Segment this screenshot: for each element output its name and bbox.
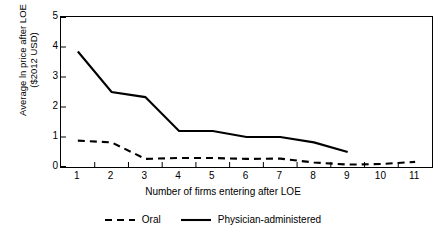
series-canvas [61, 17, 432, 167]
chart-legend: Oral Physician-administered [0, 214, 446, 225]
x-tick-label: 10 [370, 170, 390, 181]
series-line-oral [78, 141, 415, 165]
x-tick-label: 4 [168, 170, 188, 181]
x-axis-tick-labels: 1234567891011 [60, 170, 433, 184]
y-axis-tick-labels: 012345 [38, 0, 58, 200]
y-tick-label: 0 [40, 161, 58, 171]
y-tick-label: 3 [40, 71, 58, 81]
x-tick-label: 11 [404, 170, 424, 181]
legend-label-oral: Oral [142, 214, 161, 225]
y-tick-label: 2 [40, 101, 58, 111]
x-tick-label: 7 [269, 170, 289, 181]
x-tick-label: 3 [134, 170, 154, 181]
x-tick-label: 9 [337, 170, 357, 181]
x-tick-label: 6 [236, 170, 256, 181]
series-line-physician-administered [78, 52, 348, 153]
x-tick-label: 2 [101, 170, 121, 181]
plot-area [60, 16, 433, 168]
x-tick-label: 5 [202, 170, 222, 181]
legend-label-physician-administered: Physician-administered [218, 214, 321, 225]
y-axis-tick-marks [61, 18, 66, 167]
y-tick-label: 1 [40, 131, 58, 141]
y-axis-label-line-1: Average ln price after LOE [17, 4, 29, 116]
x-tick-label: 8 [303, 170, 323, 181]
legend-swatch-dashed-icon [105, 215, 135, 225]
y-tick-label: 5 [40, 11, 58, 21]
x-axis-label: Number of firms entering after LOE [0, 186, 446, 197]
x-tick-label: 1 [67, 170, 87, 181]
legend-item-physician-administered: Physician-administered [181, 214, 341, 225]
legend-swatch-solid-icon [181, 215, 211, 225]
y-tick-label: 4 [40, 41, 58, 51]
chart-figure: Average ln price after LOE ($2012 USD) 0… [0, 0, 446, 245]
legend-item-oral: Oral [105, 214, 181, 225]
